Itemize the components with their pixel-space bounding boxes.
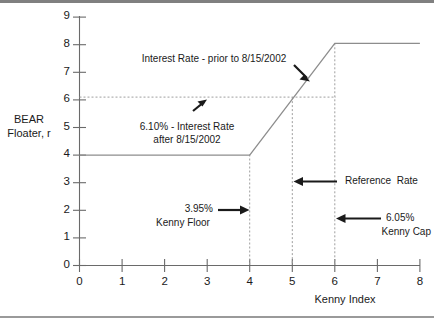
arrow-kenny-floor	[218, 206, 250, 215]
arrow-reference-rate	[294, 177, 338, 186]
x-tick-label-3: 3	[197, 275, 217, 289]
y-tick-label-5: 5	[56, 120, 70, 134]
chart-figure: 0 1 2 3 4 5 6 7 8 9 0 1 2 3 4 5 6 7 8 BE…	[0, 0, 434, 318]
annotation-kenny-cap-label: Kenny Cap	[355, 226, 431, 238]
y-tick-label-7: 7	[56, 65, 70, 79]
y-axis-title-line2: Floater, r	[2, 127, 56, 140]
y-tick-label-1: 1	[56, 230, 70, 244]
x-tick-label-2: 2	[155, 275, 175, 289]
x-axis-title: Kenny Index	[300, 293, 390, 306]
annotation-kenny-cap-value: 6.05%	[386, 212, 434, 224]
annotation-kenny-floor-label: Kenny Floor	[143, 217, 223, 229]
y-tick-label-3: 3	[56, 175, 70, 189]
x-tick-label-5: 5	[282, 275, 302, 289]
annotation-interest-rate-after-line1: 6.10% - Interest Rate	[112, 121, 262, 133]
y-tick-label-2: 2	[56, 203, 70, 217]
annotation-kenny-floor-value: 3.95%	[145, 203, 213, 215]
annotation-reference-rate: Reference Rate	[345, 175, 434, 187]
x-tick-label-0: 0	[70, 275, 90, 289]
x-tick-label-4: 4	[240, 275, 260, 289]
y-tick-label-0: 0	[56, 258, 70, 272]
annotation-interest-rate-prior: Interest Rate - prior to 8/15/2002	[124, 53, 304, 65]
arrow-interest-rate-prior	[294, 65, 310, 82]
x-tick-label-1: 1	[112, 275, 132, 289]
arrow-kenny-cap	[336, 214, 381, 223]
y-tick-label-4: 4	[56, 147, 70, 161]
y-tick-label-6: 6	[56, 92, 70, 106]
x-tick-label-6: 6	[325, 275, 345, 289]
arrow-interest-rate-after	[193, 100, 207, 112]
annotation-interest-rate-after-line2: after 8/15/2002	[112, 134, 262, 146]
y-tick-label-9: 9	[56, 9, 70, 23]
y-tick-label-8: 8	[56, 37, 70, 51]
x-tick-label-7: 7	[367, 275, 387, 289]
x-tick-label-8: 8	[410, 275, 430, 289]
y-axis-title-line1: BEAR	[6, 113, 52, 126]
